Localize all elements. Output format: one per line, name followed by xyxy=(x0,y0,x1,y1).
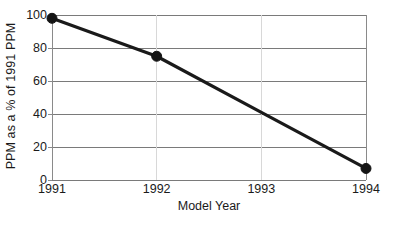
x-tick-label-1991: 1991 xyxy=(38,182,66,196)
x-axis-title: Model Year xyxy=(52,199,366,213)
y-tick-label-20: 20 xyxy=(33,140,47,154)
y-tick-label-40: 40 xyxy=(33,107,47,121)
x-tick-label-1994: 1994 xyxy=(352,182,380,196)
data-point-1994 xyxy=(361,163,371,173)
x-axis-tick-labels: 1991199219931994 xyxy=(52,182,366,200)
y-tick-label-100: 100 xyxy=(26,8,47,22)
y-axis-title: PPM as a % of 1991 PPM xyxy=(0,0,22,192)
data-series-markers xyxy=(47,13,371,173)
clipped-bottom-text xyxy=(0,222,419,230)
data-point-1992 xyxy=(152,51,162,61)
y-axis-title-text: PPM as a % of 1991 PPM xyxy=(4,23,18,170)
y-tick-label-80: 80 xyxy=(33,41,47,55)
y-axis-tick-labels: 020406080100 xyxy=(20,0,50,192)
line-chart-figure: PPM as a % of 1991 PPM 020406080100 1991… xyxy=(0,0,419,230)
series-path xyxy=(52,18,366,168)
vertical-gridlines xyxy=(52,15,366,180)
plot-area xyxy=(52,15,366,180)
data-point-1991 xyxy=(47,13,57,23)
axis-lines xyxy=(52,15,366,180)
horizontal-gridlines xyxy=(52,15,366,180)
x-tick-label-1992: 1992 xyxy=(143,182,171,196)
x-tick-label-1993: 1993 xyxy=(247,182,275,196)
plot-svg xyxy=(52,15,366,180)
x-axis-title-text: Model Year xyxy=(178,199,241,213)
data-series-line xyxy=(52,18,366,168)
y-tick-label-60: 60 xyxy=(33,74,47,88)
